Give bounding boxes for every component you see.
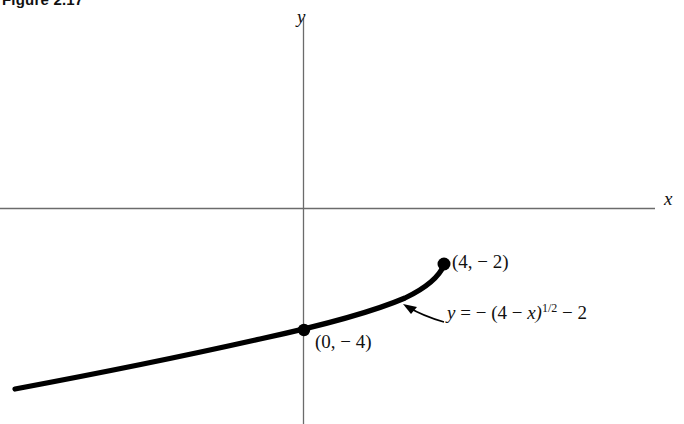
equation-trailing-minus: −: [562, 302, 573, 323]
equation-open-paren: (4: [491, 302, 507, 323]
point-marker-4-neg2: [438, 258, 451, 271]
plot-canvas: [0, 0, 684, 424]
equation-leading-minus: −: [476, 302, 487, 323]
equation-constant: 2: [578, 302, 588, 323]
point-marker-0-neg4: [298, 324, 310, 336]
annotation-arrowhead: [403, 304, 417, 314]
equation-annotation: y = − (4 − x)1/2 − 2: [447, 302, 587, 324]
x-axis-label: x: [664, 188, 672, 210]
y-axis-label: y: [297, 6, 305, 28]
point-label-4-neg2: (4, − 2): [452, 251, 509, 273]
figure-container: Figure 2.17 y x (4, − 2) (0, − 4) y = − …: [0, 0, 684, 424]
equation-equals: =: [460, 302, 471, 323]
exponent-denominator: 2: [551, 301, 557, 315]
equation-variable: x): [527, 302, 542, 323]
equation-lhs: y: [447, 302, 455, 323]
equation-inner-minus: −: [512, 302, 523, 323]
function-curve: [15, 265, 444, 389]
equation-exponent: 1/2: [542, 301, 557, 315]
point-label-0-neg4: (0, − 4): [315, 331, 372, 353]
